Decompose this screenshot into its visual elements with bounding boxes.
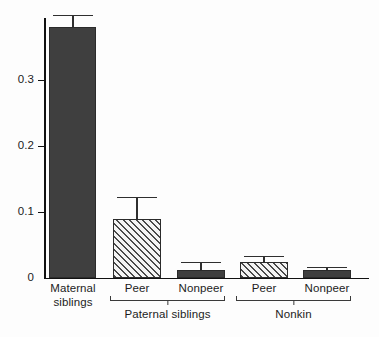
group-label-nonkin: Nonkin: [232, 308, 355, 320]
bar-maternal-siblings: [49, 27, 96, 278]
y-tick-0-3: [38, 80, 45, 81]
category-label-paternal-nonpeer: Nonpeer: [169, 282, 233, 296]
category-label-nonkin-nonpeer: Nonpeer: [295, 282, 359, 296]
y-axis-line: [44, 18, 46, 278]
y-tick-0-2: [38, 146, 45, 147]
bar-paternal-peer: [113, 219, 161, 278]
y-tick-0-1: [38, 212, 45, 213]
category-label-maternal-siblings: Maternal siblings: [40, 282, 106, 309]
bar-nonkin-peer: [240, 262, 288, 278]
group-label-paternal-siblings: Paternal siblings: [102, 308, 233, 320]
bar-nonkin-nonpeer: [303, 270, 351, 278]
y-tick-label-0-2: 0.2: [2, 140, 34, 152]
bar-chart-figure: 0.3 0.2 0.1 0 Maternal siblings Peer Non…: [0, 0, 379, 337]
plot-area: 0.3 0.2 0.1 0 Maternal siblings Peer Non…: [0, 0, 379, 337]
category-label-nonkin-peer: Peer: [234, 282, 294, 296]
group-brace-paternal-siblings: [110, 296, 225, 305]
bar-paternal-nonpeer: [177, 270, 225, 278]
group-brace-nonkin: [236, 296, 351, 305]
error-stem-bar-1: [136, 197, 137, 220]
y-tick-label-0-1: 0.1: [2, 206, 34, 218]
category-label-paternal-peer: Peer: [107, 282, 167, 296]
y-tick-label-0-3: 0.3: [2, 74, 34, 86]
y-tick-label-0: 0: [2, 272, 34, 284]
